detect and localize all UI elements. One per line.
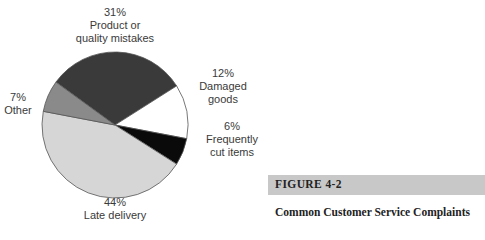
slice-label-text: Damaged [199,80,247,92]
slice-label-text: cut items [210,146,255,158]
slice-percent: 12% [212,67,234,79]
slice-label-late-delivery: 44%Late delivery [84,196,147,221]
slice-label-other: 7%Other [4,91,32,116]
slice-label-text: quality mistakes [76,32,155,44]
slice-label-text: Late delivery [84,209,147,221]
slice-label-product-or-quality-mistakes: 31%Product orquality mistakes [76,6,155,44]
figure-number: FIGURE 4-2 [275,178,342,190]
slice-percent: 31% [104,6,126,18]
figure-title: Common Customer Service Complaints [275,205,475,220]
slice-percent: 7% [10,91,26,103]
slice-label-text: Product or [90,19,141,31]
slice-label-text: Frequently [206,133,258,145]
slice-percent: 44% [104,196,126,208]
slice-percent: 6% [224,120,240,132]
slice-label-text: goods [208,93,238,105]
slice-label-damaged-goods: 12%Damagedgoods [199,67,247,105]
slice-label-frequently-cut-items: 6%Frequentlycut items [206,120,258,158]
pie-chart: 31%Product orquality mistakes12%Damagedg… [0,0,485,240]
slice-label-text: Other [4,104,32,116]
